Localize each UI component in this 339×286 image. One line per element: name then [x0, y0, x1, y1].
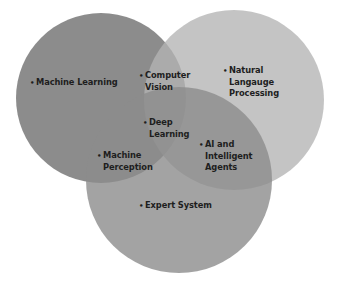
label-text: Perception — [97, 162, 153, 173]
label-ai-intelligent-agents: •AI and Intelligent Agents — [199, 139, 252, 173]
label-text: Langauge — [223, 77, 279, 88]
label-machine-learning: •Machine Learning — [30, 77, 118, 89]
label-text: Learning — [143, 129, 189, 140]
label-text: Processing — [223, 88, 279, 99]
label-natural-language-processing: •Natural Langauge Processing — [223, 65, 279, 99]
label-text: Computer — [145, 70, 190, 80]
label-text: AI and — [205, 139, 234, 149]
venn-diagram — [0, 0, 339, 286]
label-text: Natural — [229, 65, 263, 75]
label-text: Machine Learning — [36, 77, 118, 87]
label-text: Machine — [103, 150, 141, 160]
circle-bottom — [86, 87, 272, 273]
label-computer-vision: •Computer Vision — [139, 70, 190, 93]
label-text: Expert System — [145, 200, 212, 210]
label-text: Intelligent — [199, 151, 252, 162]
label-expert-system: •Expert System — [139, 200, 212, 212]
label-text: Agents — [199, 162, 252, 173]
label-machine-perception: •Machine Perception — [97, 150, 153, 173]
label-text: Vision — [139, 82, 190, 93]
label-deep-learning: •Deep Learning — [143, 117, 189, 140]
label-text: Deep — [149, 117, 173, 127]
